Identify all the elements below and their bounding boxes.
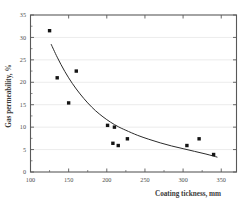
data-point <box>197 137 200 140</box>
y-axis-label: Gas permeability, % <box>5 64 13 127</box>
x-tick-label: 200 <box>102 176 111 183</box>
y-tick-label: 30 <box>20 34 26 41</box>
x-tick-label: 350 <box>217 176 226 183</box>
chart-background <box>0 0 247 204</box>
y-tick-label: 20 <box>20 78 26 85</box>
data-point <box>113 125 116 128</box>
y-tick-label: 15 <box>20 101 26 108</box>
y-tick-label: 10 <box>20 123 26 130</box>
x-tick-label: 150 <box>64 176 73 183</box>
data-point <box>126 137 129 140</box>
chart-figure: 100150200250300350 05101520253035 Coatin… <box>0 0 247 204</box>
y-tick-label: 0 <box>23 168 26 175</box>
data-point <box>106 124 109 127</box>
data-point <box>48 29 51 32</box>
y-tick-label: 5 <box>23 146 26 153</box>
data-point <box>111 142 114 145</box>
data-point <box>67 101 70 104</box>
data-point <box>56 76 59 79</box>
data-point <box>117 144 120 147</box>
x-tick-label: 300 <box>178 176 187 183</box>
y-tick-label: 35 <box>20 11 26 18</box>
gas-permeability-scatter-chart: 100150200250300350 05101520253035 Coatin… <box>0 0 247 204</box>
x-tick-label: 100 <box>26 176 35 183</box>
x-axis-label: Coating tickness, mm <box>155 190 221 198</box>
y-tick-label: 25 <box>20 56 26 63</box>
data-point <box>212 153 215 156</box>
data-point <box>75 69 78 72</box>
data-point <box>185 144 188 147</box>
x-tick-label: 250 <box>140 176 149 183</box>
